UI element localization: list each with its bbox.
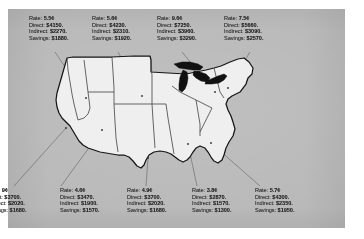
direct-value: $3700. [4,194,21,200]
callout-direct-line: Direct: $3700. [0,194,26,201]
callout-direct-line: Direct: $2870. [192,194,231,201]
direct-value: $3700. [144,194,161,200]
rate-label: Rate: [224,15,237,21]
savings-value: $1300. [215,207,232,213]
callout-savings-line: Savings: $1570. [60,207,99,214]
savings-value: $1570. [83,207,100,213]
callout-savings-line: Savings: $1950. [255,207,294,214]
rate-value: 3.8¢ [207,187,218,193]
callout-direct-line: Direct: $3700. [127,194,166,201]
savings-label: Savings: [255,207,276,213]
savings-label: Savings: [157,35,178,41]
figure-root: Rate: 5.5¢ Direct: $4150. Indirect: $227… [0,0,364,239]
callout-rate-line: Rate: 5.5¢ [29,15,68,22]
savings-label: Savings: [92,35,113,41]
callout-direct-line: Direct: $4300. [255,194,294,201]
rate-value: 4.9¢ [142,187,153,193]
callout-rate-line: Rate: 5.6¢ [92,15,131,22]
callout-northern-plains: Rate: 5.6¢ Direct: $4230. Indirect: $231… [92,15,131,41]
savings-label: Savings: [224,35,245,41]
callout-direct-line: Direct: $4230. [92,22,131,29]
callout-savings-line: Savings: $2570. [224,35,263,42]
indirect-label: Indirect: [224,28,243,34]
callout-indirect-line: Indirect: $2310. [92,28,131,35]
callout-west-coast: Rate: 9¢ Direct: $3700. Indirect: $2020.… [0,187,26,213]
direct-value: $5660. [241,22,258,28]
direct-label: Direct: [0,194,3,200]
indirect-value: $3960. [178,28,195,34]
savings-value: $1680. [10,207,27,213]
savings-label: Savings: [29,35,50,41]
direct-value: $3470. [77,194,94,200]
indirect-value: $1900. [81,200,98,206]
callout-indirect-line: Indirect: $1900. [60,200,99,207]
direct-label: Direct: [60,194,76,200]
indirect-value: $2350. [276,200,293,206]
rate-label: Rate: [60,187,73,193]
callout-savings-line: Savings: $3290. [157,35,196,42]
direct-label: Direct: [157,22,173,28]
savings-value: $3290. [180,35,197,41]
savings-value: $2570. [247,35,264,41]
direct-label: Direct: [224,22,240,28]
rate-label: Rate: [127,187,140,193]
direct-label: Direct: [255,194,271,200]
savings-value: $1880. [52,35,69,41]
callout-indirect-line: Indirect: $2270. [29,28,68,35]
indirect-label: Indirect: [192,200,211,206]
dot-south-central [147,157,149,159]
rate-value: 7.5¢ [239,15,250,21]
callout-savings-line: Savings: $1300. [192,207,231,214]
indirect-label: Indirect: [127,200,146,206]
indirect-label: Indirect: [60,200,79,206]
callout-indirect-line: Indirect: $2020. [127,200,166,207]
direct-value: $4230. [109,22,126,28]
callout-southeast-central: Rate: 3.8¢ Direct: $2870. Indirect: $157… [192,187,231,213]
direct-value: $2870. [209,194,226,200]
savings-label: Savings: [192,207,213,213]
dot-pacific-northwest [85,97,87,99]
callout-direct-line: Direct: $7250. [157,22,196,29]
callout-southwest: Rate: 4.6¢ Direct: $3470. Indirect: $190… [60,187,99,213]
callout-direct-line: Direct: $5660. [224,22,263,29]
indirect-label: Indirect: [29,28,48,34]
indirect-value: $3090. [245,28,262,34]
callout-south-central: Rate: 4.9¢ Direct: $3700. Indirect: $202… [127,187,166,213]
callout-rate-line: Rate: 7.5¢ [224,15,263,22]
callout-pacific-northwest: Rate: 5.5¢ Direct: $4150. Indirect: $227… [29,15,68,41]
indirect-label: Indirect: [0,200,6,206]
rate-label: Rate: [192,187,205,193]
callout-indirect-line: Indirect: $1570. [192,200,231,207]
indirect-value: $1570. [213,200,230,206]
callout-rate-line: Rate: 4.9¢ [127,187,166,194]
indirect-label: Indirect: [92,28,111,34]
callout-indirect-line: Indirect: $2350. [255,200,294,207]
dot-southeast [210,142,212,144]
leader-line-south-central [146,158,148,186]
dot-southwest [101,129,103,131]
direct-label: Direct: [127,194,143,200]
rate-value: 5.7¢ [270,187,281,193]
rate-label: Rate: [157,15,170,21]
direct-label: Direct: [192,194,208,200]
leader-line-west-coast [14,128,66,186]
great-lakes-superior [174,62,203,70]
rate-value: 9.6¢ [172,15,183,21]
callout-savings-line: Savings: $1920. [92,35,131,42]
callout-savings-line: Savings: $1680. [0,207,26,214]
callout-indirect-line: Indirect: $3090. [224,28,263,35]
callout-rate-line: Rate: 3.8¢ [192,187,231,194]
dot-northeast [227,87,229,89]
callout-rate-line: Rate: 5.7¢ [255,187,294,194]
callout-rate-line: Rate: 9.6¢ [157,15,196,22]
direct-label: Direct: [29,22,45,28]
savings-label: Savings: [127,207,148,213]
rate-label: Rate: [92,15,105,21]
callout-direct-line: Direct: $4150. [29,22,68,29]
indirect-value: $2310. [113,28,130,34]
callout-direct-line: Direct: $3470. [60,194,99,201]
callout-northeast: Rate: 7.5¢ Direct: $5660. Indirect: $309… [224,15,263,41]
callout-savings-line: Savings: $1680. [127,207,166,214]
us-outline-shape [56,56,253,168]
direct-label: Direct: [92,22,108,28]
